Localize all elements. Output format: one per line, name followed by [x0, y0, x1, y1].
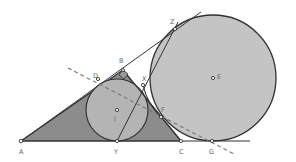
- point-Z: [173, 27, 176, 30]
- label-E: E: [217, 73, 221, 81]
- point-I: [115, 108, 118, 111]
- label-A: A: [19, 148, 24, 156]
- label-I: I: [114, 115, 116, 123]
- point-F: [159, 115, 162, 118]
- point-B: [122, 69, 125, 72]
- point-C: [179, 139, 182, 142]
- label-G: G: [209, 148, 214, 156]
- geometry-diagram: A B C D E F G I X Y Z: [0, 0, 296, 162]
- label-C: C: [179, 148, 184, 156]
- point-E: [211, 76, 214, 79]
- label-X: X: [142, 75, 147, 83]
- label-D: D: [93, 72, 98, 80]
- point-X: [141, 83, 144, 86]
- point-G: [210, 139, 213, 142]
- point-A: [19, 139, 23, 143]
- point-Y: [115, 139, 118, 142]
- label-F: F: [161, 106, 165, 114]
- label-B: B: [119, 57, 123, 65]
- label-Z: Z: [170, 18, 175, 26]
- label-Y: Y: [113, 148, 118, 156]
